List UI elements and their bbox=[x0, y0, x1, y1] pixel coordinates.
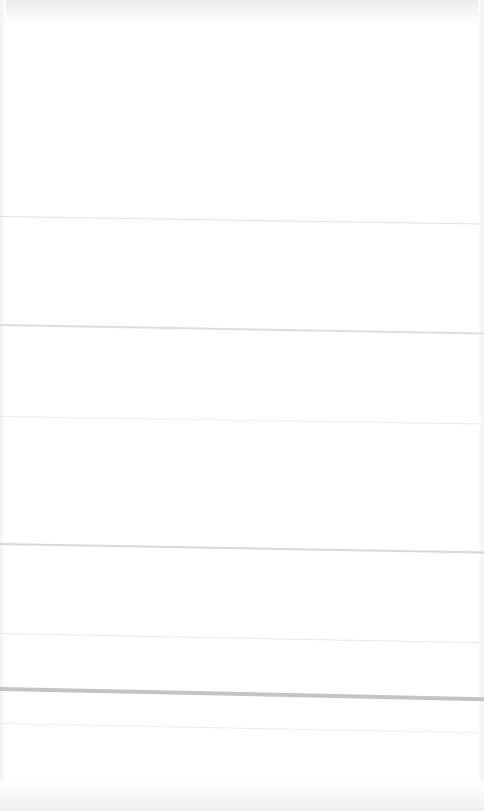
content-section-5 bbox=[0, 545, 484, 633]
content-section-3 bbox=[0, 326, 484, 416]
content-section-2 bbox=[0, 218, 484, 324]
content-section-1 bbox=[0, 22, 484, 216]
footer-band bbox=[0, 781, 484, 811]
header-band bbox=[0, 0, 484, 22]
content-section-4 bbox=[0, 418, 484, 543]
content-section-6 bbox=[0, 635, 484, 687]
